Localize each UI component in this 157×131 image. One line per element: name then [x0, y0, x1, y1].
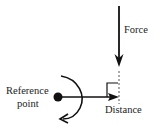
force-arrow: [115, 6, 124, 67]
rotation-arrow: [60, 76, 82, 123]
force-label: Force: [124, 24, 148, 35]
distance-label: Distance: [105, 104, 142, 115]
reference-point-label-line1: Reference: [6, 85, 49, 96]
reference-point-dot: [54, 93, 63, 102]
distance-arrow: [59, 93, 119, 101]
reference-point-label-line2: point: [17, 98, 39, 109]
